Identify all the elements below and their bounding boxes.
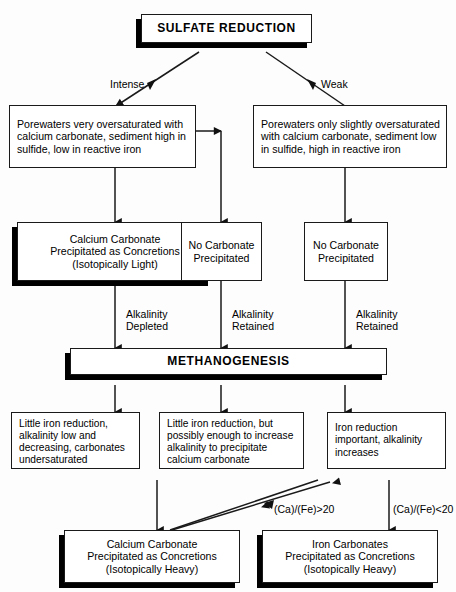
node-iron-reduction-right: Iron reduction important, alkalinity inc… [327,412,446,469]
node-little-iron-mid-label: Little iron reduction, but possibly enou… [160,413,297,466]
node-no-carbonate-mid-label: No Carbonate Precipitated [189,239,255,264]
edge-label-intense: Intense [110,66,144,90]
edge-label-alkalinity-depleted: Alkalinity Depleted [126,296,168,333]
edge-label-alkalinity-retained-mid: Alkalinity Retained [232,296,274,333]
flowchart-canvas: SULFATE REDUCTION Porewaters very oversa… [0,0,456,592]
edge-label-alkalinity-depleted-text: Alkalinity Depleted [126,308,168,332]
node-iron-reduction-right-label: Iron reduction important, alkalinity inc… [328,422,426,458]
edge-label-intense-text: Intense [110,78,144,90]
node-no-carbonate-right: No Carbonate Precipitated [304,222,388,281]
node-no-carbonate-mid: No Carbonate Precipitated [181,222,262,281]
node-calcium-carbonate-heavy: Calcium Carbonate Precipitated as Concre… [64,530,240,583]
edge-label-weak: Weak [321,66,348,90]
node-calcium-carbonate-heavy-label: Calcium Carbonate Precipitated as Concre… [87,538,217,576]
edge-label-weak-text: Weak [321,78,348,90]
edge-label-alkalinity-retained-right: Alkalinity Retained [356,296,398,333]
edge-label-ca-fe-greater-text: (Ca)/(Fe)>20 [274,503,334,515]
node-little-iron-left: Little iron reduction, alkalinity low an… [11,412,140,469]
node-sulfate-reduction-label: SULFATE REDUCTION [157,21,296,35]
node-methanogenesis: METHANOGENESIS [70,348,387,375]
node-little-iron-left-label: Little iron reduction, alkalinity low an… [12,413,129,466]
node-methanogenesis-label: METHANOGENESIS [167,354,289,368]
node-sulfate-reduction: SULFATE REDUCTION [141,14,312,43]
edge-label-ca-fe-less: (Ca)/(Fe)<20 [393,491,453,515]
node-porewaters-right-label: Porewaters only slightly oversaturated w… [254,118,444,156]
node-iron-carbonates-heavy: Iron Carbonates Precipitated as Concreti… [262,530,438,583]
edge-label-ca-fe-less-text: (Ca)/(Fe)<20 [393,503,453,515]
node-no-carbonate-right-label: No Carbonate Precipitated [313,239,379,264]
node-porewaters-left: Porewaters very oversaturated with calci… [9,105,196,168]
edge-label-alkalinity-retained-right-text: Alkalinity Retained [356,308,398,332]
edge-label-alkalinity-retained-mid-text: Alkalinity Retained [232,308,274,332]
node-porewaters-left-label: Porewaters very oversaturated with calci… [10,118,190,156]
edge-label-ca-fe-greater: (Ca)/(Fe)>20 [274,491,334,515]
node-iron-carbonates-heavy-label: Iron Carbonates Precipitated as Concreti… [285,538,415,576]
node-porewaters-right: Porewaters only slightly oversaturated w… [253,105,447,168]
node-little-iron-mid: Little iron reduction, but possibly enou… [159,412,304,469]
node-calcium-carbonate-light-label: Calcium Carbonate Precipitated as Concre… [50,233,180,271]
